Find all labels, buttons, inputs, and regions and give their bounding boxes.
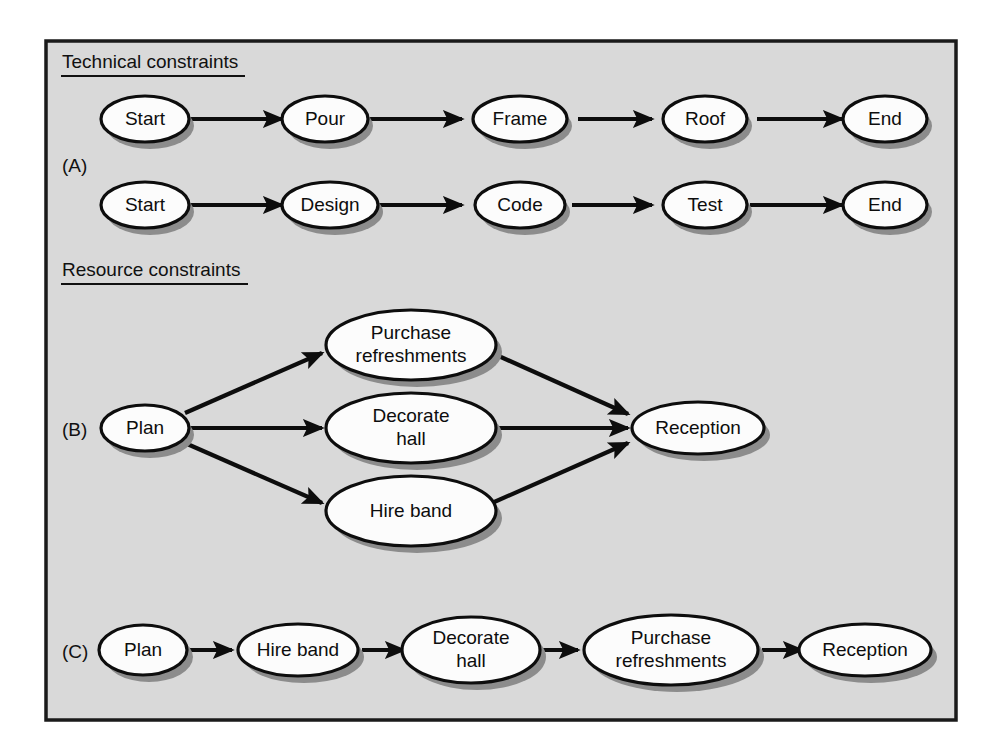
heading-technical-constraints-label: Technical constraints bbox=[62, 51, 238, 72]
node-b-purchase-line1: Purchase bbox=[371, 322, 451, 343]
node-b-plan-label: Plan bbox=[126, 417, 164, 438]
node-a2-end-label: End bbox=[868, 194, 902, 215]
node-a1-start-label: Start bbox=[125, 108, 166, 129]
node-a1-pour-label: Pour bbox=[305, 108, 346, 129]
node-c-hire-band-label: Hire band bbox=[257, 639, 339, 660]
heading-resource-constraints-label: Resource constraints bbox=[62, 259, 240, 280]
node-c-decorate-line2: hall bbox=[456, 650, 486, 671]
section-label-a: (A) bbox=[62, 155, 87, 176]
node-b-purchase-line2: refreshments bbox=[356, 345, 467, 366]
node-b-decorate-line1: Decorate bbox=[372, 405, 449, 426]
section-label-b: (B) bbox=[62, 419, 87, 440]
node-a2-start-label: Start bbox=[125, 194, 166, 215]
node-c-plan-label: Plan bbox=[124, 639, 162, 660]
node-c-purchase-line2: refreshments bbox=[616, 650, 727, 671]
section-label-c: (C) bbox=[62, 641, 88, 662]
node-a1-frame-label: Frame bbox=[493, 108, 548, 129]
node-a2-code-label: Code bbox=[497, 194, 542, 215]
node-c-decorate-line1: Decorate bbox=[432, 627, 509, 648]
node-a2-design-label: Design bbox=[300, 194, 359, 215]
node-c-purchase-line1: Purchase bbox=[631, 627, 711, 648]
node-c-reception-label: Reception bbox=[822, 639, 908, 660]
node-b-hire-band-label: Hire band bbox=[370, 500, 452, 521]
node-a1-end-label: End bbox=[868, 108, 902, 129]
constraints-diagram: Technical constraints Resource constrain… bbox=[0, 0, 1000, 748]
node-a1-roof-label: Roof bbox=[685, 108, 726, 129]
node-a2-test-label: Test bbox=[688, 194, 724, 215]
node-b-reception-label: Reception bbox=[655, 417, 741, 438]
figure-container: Technical constraints Resource constrain… bbox=[0, 0, 1000, 748]
node-b-decorate-line2: hall bbox=[396, 428, 426, 449]
